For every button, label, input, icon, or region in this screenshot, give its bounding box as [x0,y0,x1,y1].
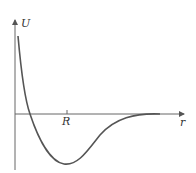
potential-energy-diagram: U r R [0,0,196,173]
r-tick-label: R [61,115,70,128]
y-axis-label: U [21,17,31,30]
x-axis-label: r [180,116,186,129]
potential-curve [18,36,160,164]
